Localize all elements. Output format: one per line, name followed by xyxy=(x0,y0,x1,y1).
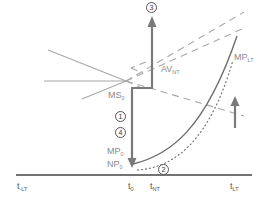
step-2-marker: 2 xyxy=(158,164,169,175)
label-np0: NP0 xyxy=(107,160,123,171)
mp-lt-curve xyxy=(133,36,237,164)
past-line-upper xyxy=(48,50,126,81)
diagram-canvas: MS0 MP0 NP0 AVNT MPLT t-LT t0 tNT tLT 1 … xyxy=(0,0,269,199)
tick-t0: t0 xyxy=(128,182,134,193)
step-1-marker: 1 xyxy=(115,111,126,122)
label-mp-lt: MPLT xyxy=(234,53,254,64)
step-3-marker: 3 xyxy=(146,2,157,13)
projection-line-upper xyxy=(126,12,244,81)
diagram-svg xyxy=(0,0,269,199)
tick-t-minus-lt: t-LT xyxy=(17,182,27,193)
arrow-up-icon xyxy=(231,96,240,106)
projection-line-lower xyxy=(126,81,244,116)
arrow-up-icon xyxy=(148,16,157,27)
step-path xyxy=(132,22,152,164)
step-4-marker: 4 xyxy=(115,127,126,138)
projection-line-back-upper xyxy=(131,62,146,68)
label-ms0: MS0 xyxy=(108,91,125,102)
step-path-line xyxy=(132,22,152,164)
tick-t-lt: tLT xyxy=(230,182,239,193)
label-av-nt: AVNT xyxy=(161,65,180,76)
projection-line-middle xyxy=(126,28,244,81)
tick-t-nt: tNT xyxy=(150,182,160,193)
label-mp0: MP0 xyxy=(107,147,124,158)
